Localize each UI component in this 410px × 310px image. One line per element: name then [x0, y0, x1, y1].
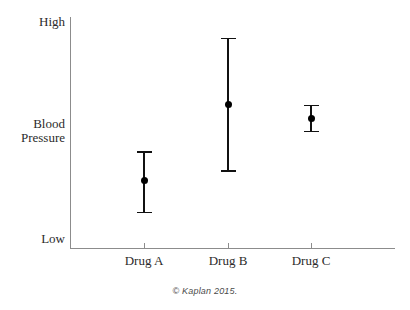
y-axis-title-line1: Blood [33, 116, 65, 131]
copyright-credit: © Kaplan 2015. [0, 286, 410, 296]
errorbar-cap-bottom [221, 170, 236, 172]
x-axis-label-drug-b: Drug B [183, 253, 273, 269]
x-tick-drug-b [228, 243, 229, 249]
errorbar-drug-c [299, 105, 323, 133]
errorbar-cap-bottom [137, 212, 152, 214]
data-point-marker [225, 101, 232, 108]
data-point-marker [141, 177, 148, 184]
y-axis-label-high: High [39, 15, 65, 29]
x-tick-drug-a [144, 243, 145, 249]
chart-figure: High Blood Pressure Low Drug A Drug B Dr… [0, 0, 410, 310]
errorbar-cap-bottom [304, 131, 319, 133]
x-tick-drug-c [311, 243, 312, 249]
errorbar-drug-b [216, 38, 240, 172]
x-axis-label-drug-a: Drug A [99, 253, 189, 269]
data-point-marker [308, 115, 315, 122]
x-axis-line [70, 248, 395, 249]
y-axis-title: Blood Pressure [21, 117, 65, 145]
y-axis-label-low: Low [41, 232, 65, 246]
errorbar-drug-a [132, 151, 156, 213]
x-axis-label-drug-c: Drug C [266, 253, 356, 269]
y-axis-title-line2: Pressure [21, 131, 65, 145]
y-axis-line [70, 17, 71, 248]
